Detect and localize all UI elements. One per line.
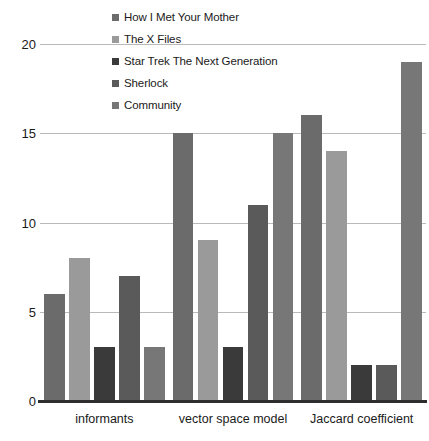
- y-axis-tick-label: 20: [2, 37, 36, 52]
- bar[interactable]: [44, 294, 65, 401]
- legend-item[interactable]: How I Met Your Mother: [112, 6, 362, 28]
- x-axis-category-label: vector space model: [179, 412, 287, 426]
- gridline: [40, 44, 426, 45]
- legend-swatch-icon: [112, 36, 119, 43]
- bar[interactable]: [144, 347, 165, 401]
- y-axis: 05101520: [0, 0, 36, 441]
- x-axis-category-label: Jaccard coefficient: [310, 412, 413, 426]
- y-axis-tick-label: 15: [2, 126, 36, 141]
- bar[interactable]: [119, 276, 140, 401]
- bar[interactable]: [173, 133, 194, 401]
- x-axis-baseline: [38, 400, 427, 403]
- bar[interactable]: [69, 258, 90, 401]
- y-axis-tick-label: 0: [2, 394, 36, 409]
- plot-area: [40, 44, 426, 401]
- bar[interactable]: [273, 133, 294, 401]
- bar[interactable]: [198, 240, 219, 401]
- bar[interactable]: [248, 205, 269, 401]
- gridline: [40, 223, 426, 224]
- y-axis-tick-label: 10: [2, 215, 36, 230]
- bar[interactable]: [376, 365, 397, 401]
- bar[interactable]: [326, 151, 347, 401]
- gridline: [40, 312, 426, 313]
- bar[interactable]: [301, 115, 322, 401]
- y-axis-tick-label: 5: [2, 304, 36, 319]
- legend-label: How I Met Your Mother: [124, 6, 239, 28]
- gridline: [40, 133, 426, 134]
- bar[interactable]: [351, 365, 372, 401]
- bar-chart: How I Met Your Mother The X Files Star T…: [0, 0, 429, 441]
- bar[interactable]: [223, 347, 244, 401]
- bar[interactable]: [401, 62, 422, 401]
- x-axis-category-label: informants: [75, 412, 133, 426]
- bar[interactable]: [94, 347, 115, 401]
- legend-swatch-icon: [112, 14, 119, 21]
